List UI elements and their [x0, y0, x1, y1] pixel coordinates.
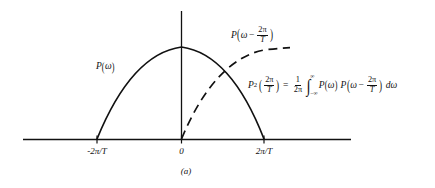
fraction-denominator: T — [369, 86, 376, 95]
close-paren-icon: ) — [335, 80, 338, 90]
x-tick-label-right: 2π/T — [256, 147, 273, 156]
eq-f1-p: P — [319, 81, 325, 91]
eq-f1-arg: ω — [328, 81, 335, 91]
curve-p-omega — [97, 47, 264, 139]
open-paren-icon: ( — [237, 29, 240, 41]
curve-label-p-omega-shifted: P(ω−2πT) — [231, 26, 273, 45]
integral-icon: ∫ — [307, 80, 311, 91]
eq-f2-p: P — [341, 81, 347, 91]
fraction-denominator: 2π — [293, 86, 303, 95]
integral-group: ∫∞−∞ — [306, 74, 318, 97]
open-paren-icon: ( — [347, 80, 350, 92]
close-paren-icon: ) — [270, 29, 273, 41]
fraction-one-over-2pi: 12π — [293, 76, 303, 95]
integral-lower-limit: −∞ — [310, 91, 318, 97]
x-tick-label-center: 0 — [179, 147, 184, 156]
open-paren-icon: ( — [259, 80, 262, 92]
fraction-denominator: T — [266, 86, 273, 95]
eq-differential-var: ω — [390, 81, 397, 91]
open-paren-icon: ( — [325, 80, 328, 90]
eq-f2-arg: ω — [350, 81, 357, 91]
label-p-omega-arg: ω — [105, 62, 112, 72]
eq-f2-minus: − — [357, 81, 365, 91]
label-shift-arg: ω — [241, 31, 248, 41]
x-tick-label-left: -2π/T — [87, 147, 107, 156]
close-paren-icon: ) — [276, 80, 279, 92]
curve-label-p-omega: P(ω) — [96, 62, 115, 72]
fraction-2pi-over-t-lhs: 2πT — [264, 76, 274, 95]
close-paren-icon: ) — [112, 62, 115, 72]
fraction-2pi-over-t: 2πT — [257, 26, 267, 45]
open-paren-icon: ( — [102, 62, 105, 72]
label-shift-minus: − — [247, 31, 255, 41]
fraction-2pi-over-t-rhs: 2πT — [367, 76, 377, 95]
fraction-denominator: T — [259, 36, 266, 45]
close-paren-icon: ) — [379, 80, 382, 92]
figure-container: P(ω) P(ω−2πT) P2(2πT)=12π∫∞−∞P(ω)P(ω−2πT… — [0, 0, 435, 188]
eq-lhs-subscript: 2 — [254, 82, 257, 89]
convolution-equation: P2(2πT)=12π∫∞−∞P(ω)P(ω−2πT)dω — [248, 74, 397, 97]
integral-upper-limit: ∞ — [310, 74, 318, 80]
figure-caption: (a) — [181, 167, 192, 176]
integral-limits: ∞−∞ — [310, 74, 318, 97]
eq-equals-sign: = — [280, 81, 291, 91]
